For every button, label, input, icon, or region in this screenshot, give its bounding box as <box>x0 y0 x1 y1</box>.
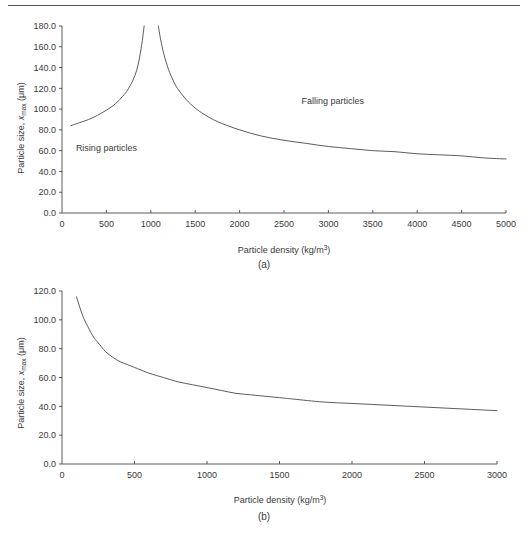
y-title-unit: (μm) <box>16 82 26 103</box>
y-tick-label: 100.0 <box>33 104 56 114</box>
y-tick-label: 40.0 <box>38 402 56 412</box>
chart-b-data-curves <box>77 297 498 411</box>
y-title-subscript: max <box>20 358 27 371</box>
data-curve <box>77 297 498 411</box>
chart-b-x-axis-title: Particle density (kg/m3) <box>234 494 327 506</box>
chart-a-data-curves <box>71 26 506 159</box>
x-tick-label: 4500 <box>452 219 472 229</box>
chart-a-canvas: 0500100015002000250030003500400045005000… <box>0 10 528 270</box>
y-tick-label: 0.0 <box>43 459 56 469</box>
y-title-text: Particle size, <box>16 375 26 429</box>
data-curve <box>71 26 144 126</box>
chart-b-tickmarks <box>59 291 497 464</box>
x-tick-label: 2000 <box>342 470 362 480</box>
x-tick-label: 4000 <box>407 219 427 229</box>
x-tick-label: 500 <box>127 470 142 480</box>
y-tick-label: 20.0 <box>38 187 56 197</box>
y-title-subscript: max <box>20 103 27 116</box>
y-tick-label: 120.0 <box>33 84 56 94</box>
chart-b-y-tick-labels: 0.020.040.060.080.0100.0120.0 <box>33 286 56 469</box>
chart-b-y-axis-title: Particle size, xmax (μm) <box>16 337 27 429</box>
x-tick-label: 0 <box>59 219 64 229</box>
y-tick-label: 0.0 <box>43 208 56 218</box>
chart-a-annotations: Rising particlesFalling particles <box>76 96 365 153</box>
chart-a-caption: (a) <box>258 259 270 270</box>
data-curve <box>158 26 506 159</box>
y-tick-label: 180.0 <box>33 21 56 31</box>
chart-a-y-tick-labels: 0.020.040.060.080.0100.0120.0140.0160.01… <box>33 21 56 218</box>
chart-b-caption: (b) <box>258 511 270 522</box>
chart-b-canvas: 050010001500200025003000 0.020.040.060.0… <box>0 278 528 518</box>
axis-spine <box>62 26 506 213</box>
chart-panel-b: 050010001500200025003000 0.020.040.060.0… <box>0 278 528 543</box>
y-tick-label: 80.0 <box>38 125 56 135</box>
x-tick-label: 500 <box>99 219 114 229</box>
chart-a-axes <box>62 26 506 213</box>
x-title-tail: ) <box>323 495 326 505</box>
x-tick-label: 1500 <box>185 219 205 229</box>
x-tick-label: 3000 <box>318 219 338 229</box>
x-tick-label: 2500 <box>414 470 434 480</box>
x-tick-label: 5000 <box>496 219 516 229</box>
x-tick-label: 1000 <box>141 219 161 229</box>
y-tick-label: 40.0 <box>38 167 56 177</box>
y-tick-label: 60.0 <box>38 146 56 156</box>
x-tick-label: 1000 <box>197 470 217 480</box>
chart-a-x-tick-labels: 0500100015002000250030003500400045005000 <box>59 219 516 229</box>
x-tick-label: 1500 <box>269 470 289 480</box>
y-tick-label: 100.0 <box>33 315 56 325</box>
x-tick-label: 2500 <box>274 219 294 229</box>
chart-a-tickmarks <box>59 26 506 213</box>
y-tick-label: 60.0 <box>38 373 56 383</box>
chart-a-y-axis-title: Particle size, xmax (μm) <box>16 82 27 174</box>
chart-b-x-tick-labels: 050010001500200025003000 <box>59 470 507 480</box>
chart-annotation: Rising particles <box>76 143 138 153</box>
y-tick-label: 20.0 <box>38 430 56 440</box>
chart-annotation: Falling particles <box>302 96 365 106</box>
chart-panel-a: 0500100015002000250030003500400045005000… <box>0 10 528 270</box>
x-tick-label: 0 <box>59 470 64 480</box>
axis-spine <box>62 291 497 464</box>
y-tick-label: 80.0 <box>38 344 56 354</box>
y-title-unit: (μm) <box>16 337 26 358</box>
x-tick-label: 3500 <box>363 219 383 229</box>
y-title-text: Particle size, <box>16 120 26 174</box>
y-tick-label: 120.0 <box>33 286 56 296</box>
x-title-text: Particle density (kg/m <box>234 495 320 505</box>
chart-b-axes <box>62 291 497 464</box>
x-tick-label: 3000 <box>487 470 507 480</box>
y-tick-label: 160.0 <box>33 42 56 52</box>
header-rule <box>8 5 520 6</box>
x-tick-label: 2000 <box>230 219 250 229</box>
y-tick-label: 140.0 <box>33 63 56 73</box>
